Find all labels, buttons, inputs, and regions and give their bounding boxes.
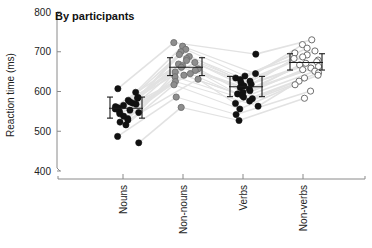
data-point — [187, 71, 193, 77]
data-point — [192, 59, 198, 65]
data-point — [300, 54, 306, 60]
data-point — [315, 72, 321, 78]
data-point — [115, 86, 121, 92]
y-tick-label: 600 — [34, 86, 51, 97]
data-point — [304, 45, 310, 51]
data-point — [253, 51, 259, 57]
data-point — [123, 122, 129, 128]
data-point — [301, 95, 307, 101]
data-point — [195, 76, 201, 82]
y-tick-label: 400 — [34, 166, 51, 177]
participant-connector-lines — [115, 40, 318, 143]
data-point — [171, 82, 177, 88]
data-point — [309, 37, 315, 43]
y-tick-label: 800 — [34, 7, 51, 18]
data-point — [136, 140, 142, 146]
y-axis-label: Reaction time (ms) — [5, 53, 16, 137]
chart-title: By participants — [55, 10, 134, 22]
data-point — [232, 100, 238, 106]
data-point — [173, 94, 179, 100]
reaction-time-scatter-plot: 400500600700800NounsNon-nounsVerbsNon-ve… — [0, 0, 372, 248]
data-point — [233, 111, 239, 117]
figure-panel: 400500600700800NounsNon-nounsVerbsNon-ve… — [0, 0, 372, 248]
y-tick-label: 500 — [34, 126, 51, 137]
data-point — [115, 133, 121, 139]
data-point — [117, 119, 123, 125]
data-point — [134, 95, 140, 101]
x-tick-label-non-verbs: Non-verbs — [298, 185, 309, 231]
data-point — [178, 104, 184, 110]
x-tick-label-verbs: Verbs — [238, 185, 249, 211]
data-point — [292, 82, 298, 88]
data-point — [237, 106, 243, 112]
data-point — [291, 55, 297, 61]
data-point — [252, 71, 258, 77]
data-point — [312, 48, 318, 54]
data-point — [133, 101, 139, 107]
data-point — [171, 40, 177, 46]
y-tick-label: 700 — [34, 46, 51, 57]
data-point — [236, 117, 242, 123]
data-point — [247, 88, 253, 94]
data-point — [136, 109, 142, 115]
data-point — [181, 72, 187, 78]
data-point — [303, 60, 309, 66]
data-point — [255, 103, 261, 109]
data-point — [240, 94, 246, 100]
data-point — [300, 67, 306, 73]
data-point — [307, 88, 313, 94]
x-tick-label-non-nouns: Non-nouns — [178, 185, 189, 234]
x-tick-label-nouns: Nouns — [118, 185, 129, 214]
axes-layer — [57, 12, 365, 179]
data-point — [176, 51, 182, 57]
data-point — [247, 98, 253, 104]
